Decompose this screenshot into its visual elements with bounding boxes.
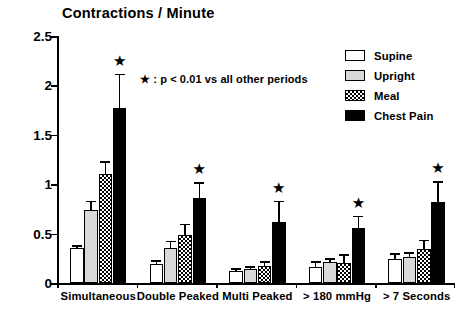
bar-chestpain bbox=[352, 228, 366, 283]
error-bar-cap bbox=[260, 261, 270, 263]
error-bar-cap bbox=[404, 252, 414, 254]
y-tick-label: 1.5 bbox=[33, 127, 52, 142]
bar-supine bbox=[70, 248, 84, 283]
bar-supine bbox=[150, 264, 164, 283]
x-tick-mark bbox=[296, 283, 298, 288]
plot-area: 00.511.522.5 ★★★★★ SimultaneousDouble Pe… bbox=[57, 36, 455, 283]
x-tick-mark bbox=[216, 283, 218, 288]
error-bar-cap bbox=[339, 254, 349, 256]
error-bar-cap bbox=[166, 241, 176, 243]
category-label: > 7 Seconds bbox=[383, 290, 450, 302]
y-tick-label: 0 bbox=[44, 276, 52, 291]
bar-meal bbox=[417, 249, 431, 283]
bar-upright bbox=[403, 257, 417, 283]
error-bar-stem bbox=[105, 161, 107, 174]
error-bar-cap bbox=[180, 224, 190, 226]
y-axis bbox=[57, 36, 59, 283]
bar-chart: Contractions / Minute ★ : p < 0.01 vs al… bbox=[0, 0, 463, 322]
error-bar-cap bbox=[86, 201, 96, 203]
bar-meal bbox=[258, 266, 272, 283]
error-bar-cap bbox=[115, 74, 125, 76]
x-tick-mark bbox=[375, 283, 377, 288]
error-bar-cap bbox=[433, 181, 443, 183]
category-label: > 180 mmHg bbox=[303, 290, 371, 302]
bar-meal bbox=[178, 235, 192, 283]
error-bar-cap bbox=[194, 182, 204, 184]
bar-supine bbox=[229, 271, 243, 283]
error-bar-cap bbox=[390, 253, 400, 255]
y-tick-label: 2 bbox=[44, 78, 52, 93]
bar-upright bbox=[164, 248, 178, 283]
error-bar-cap bbox=[100, 161, 110, 163]
error-bar-cap bbox=[245, 266, 255, 268]
y-tick-label: 1 bbox=[44, 177, 52, 192]
error-bar-stem bbox=[358, 216, 360, 228]
error-bar-stem bbox=[184, 224, 186, 235]
error-bar-cap bbox=[419, 240, 429, 242]
category-label: Simultaneous bbox=[61, 290, 136, 302]
significance-star: ★ bbox=[352, 196, 365, 211]
bar-chestpain bbox=[113, 108, 127, 283]
bar-supine bbox=[388, 259, 402, 283]
x-axis bbox=[57, 283, 455, 285]
significance-star: ★ bbox=[113, 54, 126, 69]
error-bar-stem bbox=[199, 182, 201, 198]
error-bar-cap bbox=[325, 258, 335, 260]
x-tick-mark bbox=[137, 283, 139, 288]
bar-chestpain bbox=[272, 222, 286, 283]
bar-meal bbox=[337, 263, 351, 283]
bar-chestpain bbox=[193, 198, 207, 283]
x-tick-mark bbox=[454, 283, 456, 288]
bar-upright bbox=[323, 262, 337, 283]
category-label: Multi Peaked bbox=[222, 290, 292, 302]
error-bar-stem bbox=[278, 201, 280, 222]
error-bar-cap bbox=[353, 216, 363, 218]
bar-meal bbox=[99, 174, 113, 283]
error-bar-cap bbox=[151, 260, 161, 262]
error-bar-stem bbox=[119, 74, 121, 109]
error-bar-cap bbox=[274, 201, 284, 203]
error-bar-cap bbox=[72, 245, 82, 247]
y-tick-label: 0.5 bbox=[33, 226, 52, 241]
significance-star: ★ bbox=[272, 181, 285, 196]
y-tick-label: 2.5 bbox=[33, 29, 52, 44]
bar-upright bbox=[244, 269, 258, 283]
bar-upright bbox=[84, 210, 98, 283]
chart-title: Contractions / Minute bbox=[62, 5, 214, 21]
error-bar-cap bbox=[311, 261, 321, 263]
bar-supine bbox=[309, 267, 323, 283]
category-label: Double Peaked bbox=[137, 290, 219, 302]
x-tick-mark bbox=[57, 283, 59, 288]
bar-chestpain bbox=[431, 202, 445, 283]
error-bar-cap bbox=[231, 268, 241, 270]
significance-star: ★ bbox=[193, 162, 206, 177]
error-bar-stem bbox=[437, 181, 439, 202]
significance-star: ★ bbox=[431, 161, 444, 176]
